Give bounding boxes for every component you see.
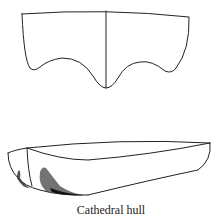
stern-end bbox=[88, 143, 210, 195]
center-sponson-shade bbox=[40, 168, 84, 196]
bow-divider bbox=[27, 148, 32, 186]
cathedral-hull-diagram bbox=[0, 0, 222, 222]
hull-cross-section bbox=[22, 11, 189, 88]
sponson-shading bbox=[17, 168, 84, 196]
gunwale-top bbox=[8, 141, 210, 153]
bow-left-side bbox=[8, 153, 18, 178]
figure-caption: Cathedral hull bbox=[0, 203, 222, 217]
hull-perspective bbox=[8, 141, 210, 195]
